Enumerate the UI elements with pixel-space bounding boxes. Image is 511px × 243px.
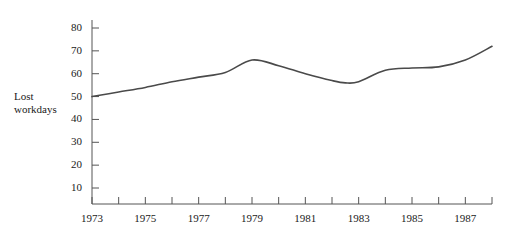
axes-group: [92, 20, 492, 204]
y-tick-label: 10: [56, 182, 82, 193]
x-tick-label: 1983: [339, 213, 379, 224]
x-tick-label: 1977: [179, 213, 219, 224]
chart-container: Lost workdays 1020304050607080 197319751…: [0, 0, 511, 243]
x-tick-label: 1979: [232, 213, 272, 224]
y-tick-label: 60: [56, 68, 82, 79]
x-tick-label: 1973: [72, 213, 112, 224]
x-ticks-group: [92, 197, 492, 204]
y-tick-label: 20: [56, 159, 82, 170]
x-tick-label: 1975: [125, 213, 165, 224]
x-tick-label: 1981: [285, 213, 325, 224]
y-tick-label: 80: [56, 22, 82, 33]
y-tick-label: 70: [56, 45, 82, 56]
x-tick-label: 1987: [445, 213, 485, 224]
y-ticks-group: [92, 28, 99, 188]
data-line-lost-workdays: [92, 46, 492, 96]
data-series-group: [92, 46, 492, 96]
x-tick-label: 1985: [392, 213, 432, 224]
y-tick-label: 50: [56, 91, 82, 102]
y-tick-label: 40: [56, 113, 82, 124]
y-tick-label: 30: [56, 136, 82, 147]
